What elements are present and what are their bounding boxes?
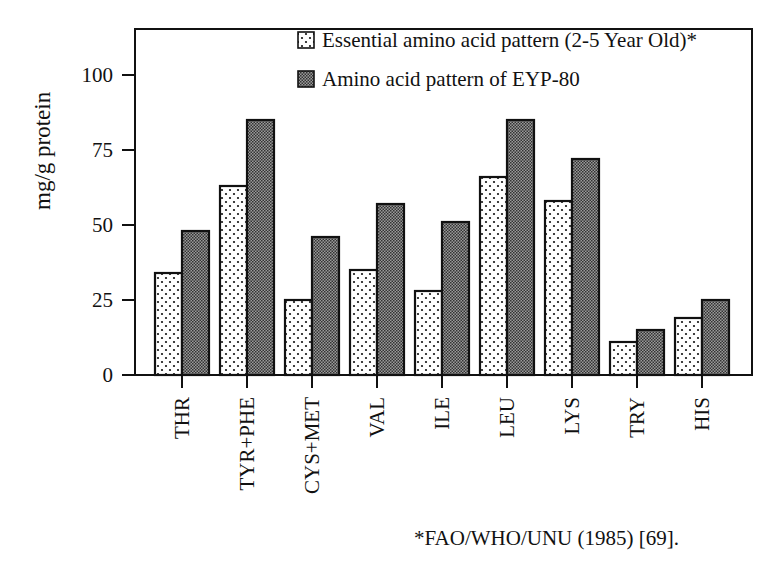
legend-label: Amino acid pattern of EYP-80 — [322, 67, 580, 91]
x-tick-label: CYS+MET — [300, 397, 324, 494]
bar-essential-pattern — [285, 300, 312, 375]
bar-chart-canvas: 0255075100 THRTYR+PHECYS+METVALILELEULYS… — [0, 0, 783, 584]
bar-eyp80-pattern — [442, 222, 469, 375]
x-tick-label: VAL — [365, 397, 389, 437]
x-tick-label: HIS — [690, 397, 714, 431]
bars — [155, 120, 729, 375]
y-tick-label: 0 — [103, 363, 114, 387]
footnote: *FAO/WHO/UNU (1985) [69]. — [414, 526, 679, 551]
x-tick-label: LEU — [495, 397, 519, 438]
bar-eyp80-pattern — [572, 159, 599, 375]
bar-eyp80-pattern — [637, 330, 664, 375]
bar-essential-pattern — [155, 273, 182, 375]
y-tick-label: 50 — [92, 213, 113, 237]
legend-label: Essential amino acid pattern (2-5 Year O… — [322, 28, 697, 52]
bar-eyp80-pattern — [312, 237, 339, 375]
x-axis: THRTYR+PHECYS+METVALILELEULYSTRYHIS — [170, 375, 714, 494]
x-tick-label: THR — [170, 397, 194, 439]
bar-essential-pattern — [545, 201, 572, 375]
x-tick-label: LYS — [560, 397, 584, 435]
bar-eyp80-pattern — [182, 231, 209, 375]
legend-swatch-hatched-icon — [298, 71, 314, 87]
x-tick-label: TYR+PHE — [235, 397, 259, 491]
bar-essential-pattern — [415, 291, 442, 375]
y-axis: 0255075100 — [82, 63, 136, 387]
bar-essential-pattern — [350, 270, 377, 375]
bar-essential-pattern — [480, 177, 507, 375]
bar-eyp80-pattern — [247, 120, 274, 375]
x-tick-label: ILE — [430, 397, 454, 430]
bar-eyp80-pattern — [702, 300, 729, 375]
chart: 0255075100 THRTYR+PHECYS+METVALILELEULYS… — [0, 0, 783, 584]
bar-essential-pattern — [220, 186, 247, 375]
y-tick-label: 75 — [92, 138, 113, 162]
y-tick-label: 25 — [92, 288, 113, 312]
y-axis-label: mg/g protein — [30, 92, 56, 210]
x-tick-label: TRY — [625, 397, 649, 438]
legend-swatch-dotted-icon — [298, 32, 314, 48]
bar-essential-pattern — [610, 342, 637, 375]
y-tick-label: 100 — [82, 63, 114, 87]
legend: Essential amino acid pattern (2-5 Year O… — [298, 28, 697, 91]
bar-essential-pattern — [675, 318, 702, 375]
bar-eyp80-pattern — [507, 120, 534, 375]
bar-eyp80-pattern — [377, 204, 404, 375]
